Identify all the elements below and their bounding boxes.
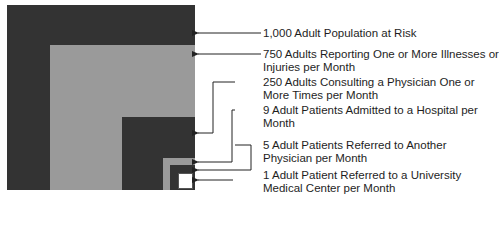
label-5-referred: 5 Adult Patients Referred to Another Phy…: [263, 139, 446, 164]
label-1-university: 1 Adult Patient Referred to a University…: [263, 169, 461, 194]
arrow-9: [198, 110, 235, 162]
arrow-250: [198, 82, 235, 133]
label-9-hospital: 9 Adult Patients Admitted to a Hospital …: [263, 104, 478, 129]
label-750-illness: 750 Adults Reporting One or More Illness…: [263, 48, 499, 73]
label-1000-population: 1,000 Adult Population at Risk: [263, 27, 416, 40]
arrow-5: [198, 145, 251, 170]
label-250-physician: 250 Adults Consulting a Physician One or…: [263, 76, 475, 101]
